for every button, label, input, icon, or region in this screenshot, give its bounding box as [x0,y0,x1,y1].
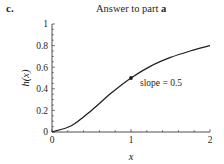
h-curve [52,46,210,132]
y-tick-label: 1 [43,19,48,29]
y-tick-label: 0.2 [36,106,48,116]
x-tick-label: 0 [50,135,55,145]
x-tick-label: 2 [208,135,213,145]
y-axis-label: h(x) [20,69,32,86]
y-tick-label: 0.4 [36,84,48,94]
chart-plot: 00.20.40.60.81012xh(x)slope = 0.5 [0,0,224,164]
slope-point-marker [129,76,133,80]
x-axis-label: x [128,151,134,162]
y-tick-label: 0 [43,127,48,137]
y-tick-label: 0.8 [36,41,48,51]
x-tick-label: 1 [129,135,134,145]
y-tick-label: 0.6 [36,63,48,73]
slope-annotation: slope = 0.5 [140,78,182,88]
